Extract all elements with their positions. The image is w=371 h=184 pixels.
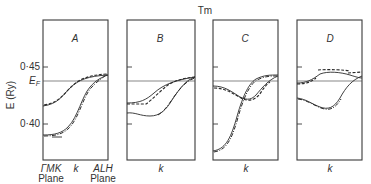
x-right-label-line2: Plane [90, 173, 116, 184]
panel-d-label: D [326, 33, 333, 44]
band-curve [44, 74, 107, 105]
band-curve [158, 78, 195, 115]
panel-a: A [43, 20, 108, 160]
panel-c-x-label: k [244, 163, 250, 174]
panel-c-label: C [241, 33, 249, 44]
panel-d: D [297, 20, 362, 160]
y-tick-fermi: EF [29, 75, 41, 87]
figure-title: Tm [198, 5, 212, 16]
panel-d-x-label: k [328, 163, 334, 174]
y-axis-label-text: E (Ry) [5, 81, 16, 109]
y-tick-040: 0·40 [20, 118, 40, 129]
x-left-label-line2: Plane [38, 173, 64, 184]
panel-c: C [213, 20, 278, 160]
y-tick-045: 0·45 [20, 61, 40, 72]
y-axis-label: E (Ry) [5, 81, 16, 109]
panel-a-label: A [71, 33, 79, 44]
band-curve [297, 72, 362, 83]
band-structure-figure: Tm E (Ry) 0·45 EF 0·40 A B C [0, 0, 371, 184]
panel-b: B [127, 20, 195, 160]
band-curve [127, 77, 195, 116]
band-curve [298, 99, 341, 109]
band-curve [213, 75, 278, 151]
panel-b-label: B [157, 33, 164, 44]
panel-a-x-label: k [74, 163, 80, 174]
panel-b-x-label: k [159, 163, 165, 174]
band-curve [43, 75, 108, 135]
